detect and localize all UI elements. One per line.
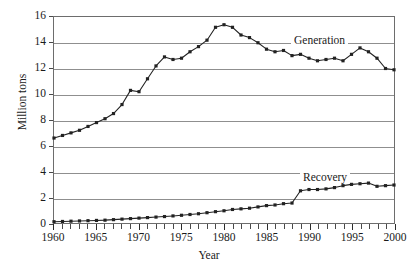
- x-axis-minor-tick: [130, 224, 131, 229]
- data-point-marker: [205, 211, 208, 214]
- data-point-marker: [273, 203, 276, 206]
- data-point-marker: [95, 121, 98, 124]
- data-point-marker: [214, 26, 217, 29]
- x-axis-major-tick: [181, 224, 182, 230]
- y-axis-tick-label: 8: [40, 114, 46, 126]
- data-point-marker: [180, 57, 183, 60]
- x-axis-minor-tick: [361, 224, 362, 229]
- x-axis-minor-tick: [215, 224, 216, 229]
- x-axis-minor-tick: [292, 224, 293, 229]
- data-point-marker: [222, 209, 225, 212]
- x-axis-title: Year: [0, 249, 418, 261]
- data-point-marker: [333, 57, 336, 60]
- y-axis-title: Million tons: [16, 54, 28, 150]
- x-axis-major-tick: [53, 224, 54, 230]
- data-point-marker: [367, 182, 370, 185]
- data-point-marker: [103, 117, 106, 120]
- x-axis-minor-tick: [241, 224, 242, 229]
- x-axis-minor-tick: [386, 224, 387, 229]
- series-recovery: [52, 182, 395, 224]
- data-point-marker: [392, 183, 395, 186]
- data-point-marker: [350, 53, 353, 56]
- x-axis-major-tick: [395, 224, 396, 230]
- y-axis-tick-label: 16: [35, 10, 47, 22]
- x-axis-minor-tick: [318, 224, 319, 229]
- data-point-marker: [69, 220, 72, 223]
- x-axis-minor-tick: [233, 224, 234, 229]
- y-axis-tick-label: 6: [40, 140, 46, 152]
- data-point-marker: [129, 217, 132, 220]
- data-point-marker: [273, 50, 276, 53]
- x-axis-major-tick: [96, 224, 97, 230]
- x-axis-minor-tick: [344, 224, 345, 229]
- data-point-marker: [61, 220, 64, 223]
- data-point-marker: [265, 48, 268, 51]
- x-axis-minor-tick: [164, 224, 165, 229]
- data-point-marker: [154, 215, 157, 218]
- x-axis-minor-tick: [327, 224, 328, 229]
- data-point-marker: [197, 212, 200, 215]
- x-axis-minor-tick: [104, 224, 105, 229]
- series-label-generation: Generation: [291, 34, 348, 46]
- chart-figure: 0246810121416 Million tons Year Generati…: [0, 0, 418, 277]
- x-axis-minor-tick: [284, 224, 285, 229]
- x-axis-major-tick: [224, 224, 225, 230]
- data-point-marker: [112, 112, 115, 115]
- data-point-marker: [69, 131, 72, 134]
- data-point-marker: [146, 216, 149, 219]
- x-axis-major-tick: [310, 224, 311, 230]
- x-axis-minor-tick: [207, 224, 208, 229]
- data-point-marker: [358, 182, 361, 185]
- data-point-marker: [188, 213, 191, 216]
- data-point-marker: [154, 64, 157, 67]
- data-point-marker: [180, 214, 183, 217]
- series-label-recovery: Recovery: [300, 171, 350, 183]
- data-point-marker: [265, 204, 268, 207]
- x-axis-minor-tick: [258, 224, 259, 229]
- x-axis-minor-tick: [369, 224, 370, 229]
- data-point-marker: [367, 50, 370, 53]
- data-point-marker: [282, 202, 285, 205]
- x-axis-tick-label: 1985: [255, 231, 278, 243]
- data-point-marker: [316, 59, 319, 62]
- data-point-marker: [341, 59, 344, 62]
- data-point-marker: [188, 50, 191, 53]
- data-point-marker: [299, 53, 302, 56]
- x-axis-tick-label: 1990: [298, 231, 321, 243]
- x-axis-tick-label: 1970: [127, 231, 150, 243]
- data-point-marker: [78, 129, 81, 132]
- y-axis-tick-label: 12: [35, 62, 47, 74]
- data-point-marker: [95, 219, 98, 222]
- data-point-marker: [256, 205, 259, 208]
- data-point-marker: [112, 218, 115, 221]
- x-axis-tick-label: 1965: [84, 231, 107, 243]
- x-axis-minor-tick: [79, 224, 80, 229]
- data-point-marker: [290, 54, 293, 57]
- y-axis-tick-label: 0: [40, 218, 46, 230]
- y-axis-tick-label: 2: [40, 192, 46, 204]
- x-axis-minor-tick: [147, 224, 148, 229]
- data-point-marker: [86, 125, 89, 128]
- y-axis-tick-label: 14: [35, 36, 47, 48]
- x-axis-tick-label: 1980: [213, 231, 236, 243]
- x-axis-minor-tick: [173, 224, 174, 229]
- data-point-marker: [120, 103, 123, 106]
- data-point-marker: [222, 23, 225, 26]
- x-axis-tick-label: 1975: [170, 231, 193, 243]
- x-axis-minor-tick: [301, 224, 302, 229]
- series-line: [54, 183, 394, 222]
- data-point-marker: [205, 39, 208, 42]
- x-axis-minor-tick: [190, 224, 191, 229]
- x-axis-minor-tick: [335, 224, 336, 229]
- data-point-marker: [86, 219, 89, 222]
- x-axis: [53, 224, 395, 230]
- data-point-marker: [248, 36, 251, 39]
- x-axis-minor-tick: [70, 224, 71, 229]
- data-point-marker: [333, 186, 336, 189]
- data-point-marker: [52, 220, 55, 223]
- y-axis-tick-label: 4: [40, 166, 46, 178]
- data-point-marker: [392, 68, 395, 71]
- data-point-marker: [120, 218, 123, 221]
- data-point-marker: [384, 67, 387, 70]
- data-point-marker: [163, 215, 166, 218]
